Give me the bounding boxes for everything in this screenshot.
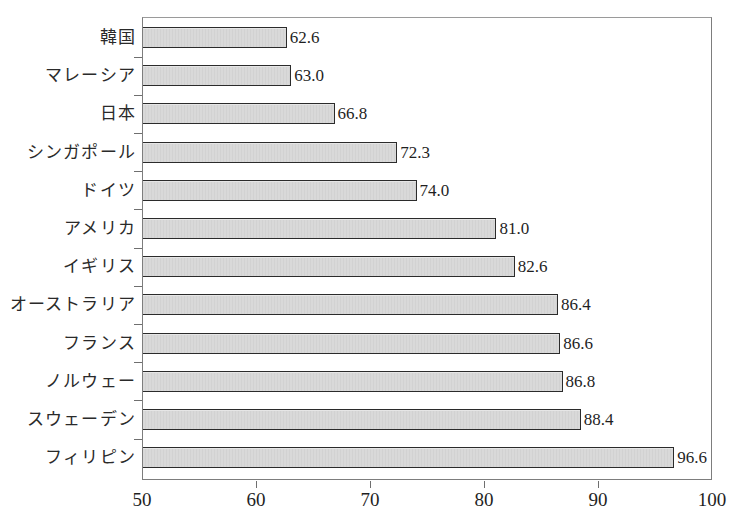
x-axis-tick-label: 100 [682, 489, 737, 511]
x-axis: 5060708090100 [0, 0, 737, 515]
x-axis-tick [484, 481, 485, 488]
x-axis-tick-label: 80 [454, 489, 514, 511]
bar-chart-figure: 韓国マレーシア日本シンガポールドイツアメリカイギリスオーストラリアフランスノルウ… [0, 0, 737, 515]
x-axis-tick-label: 70 [340, 489, 400, 511]
x-axis-tick [598, 481, 599, 488]
x-axis-tick-label: 60 [226, 489, 286, 511]
x-axis-tick-label: 90 [568, 489, 628, 511]
x-axis-tick-label: 50 [112, 489, 172, 511]
x-axis-tick [370, 481, 371, 488]
x-axis-tick [256, 481, 257, 488]
